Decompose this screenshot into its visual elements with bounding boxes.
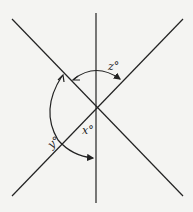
angle-label-x: x° bbox=[82, 125, 94, 136]
arrowhead-icon bbox=[73, 76, 80, 80]
diagram-svg bbox=[0, 0, 193, 212]
angle-diagram: z° y° x° bbox=[0, 0, 193, 212]
angle-label-z: z° bbox=[108, 61, 119, 72]
